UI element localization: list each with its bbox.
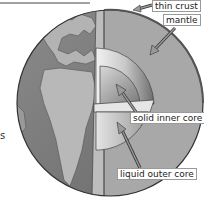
label-solid-inner-core: solid inner core (130, 112, 204, 124)
earth-layers-diagram: s thin crust mantle solid inner core liq… (0, 0, 204, 202)
arrow-thin-crust (133, 5, 152, 12)
label-thin-crust: thin crust (152, 0, 201, 12)
label-liquid-outer-core: liquid outer core (117, 168, 197, 180)
label-mantle: mantle (163, 14, 201, 26)
clipped-text-fragment: s (0, 130, 5, 141)
